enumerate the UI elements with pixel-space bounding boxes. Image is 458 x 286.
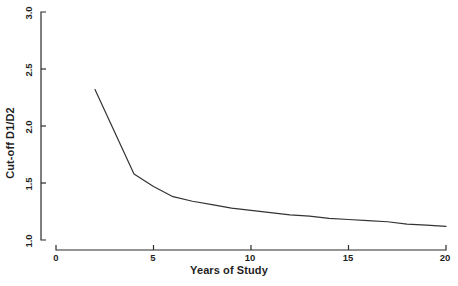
x-axis-ticks [154, 245, 349, 250]
x-tick-label-15: 15 [339, 252, 357, 263]
chart-figure: Cut-off D1/D2 Years of Study 3.0 2.5 2.0… [0, 0, 458, 286]
x-tick-label-20: 20 [436, 252, 454, 263]
y-tick-label-1-5: 1.5 [23, 172, 37, 196]
y-tick-label-3-0: 3.0 [23, 1, 37, 25]
y-tick-label-2-0: 2.0 [23, 115, 37, 139]
y-tick-label-1-0: 1.0 [23, 229, 37, 253]
data-line-0 [95, 90, 446, 227]
x-tick-label-0: 0 [48, 252, 64, 263]
x-tick-label-10: 10 [241, 252, 259, 263]
y-axis-ticks [41, 69, 46, 183]
x-tick-label-5: 5 [145, 252, 161, 263]
y-tick-label-2-5: 2.5 [23, 58, 37, 82]
plot-area [0, 0, 458, 286]
y-axis-title: Cut-off D1/D2 [2, 0, 18, 286]
x-axis-title: Years of Study [0, 264, 458, 276]
y-axis [41, 12, 46, 240]
data-series-group [95, 90, 446, 227]
x-axis [56, 245, 446, 250]
